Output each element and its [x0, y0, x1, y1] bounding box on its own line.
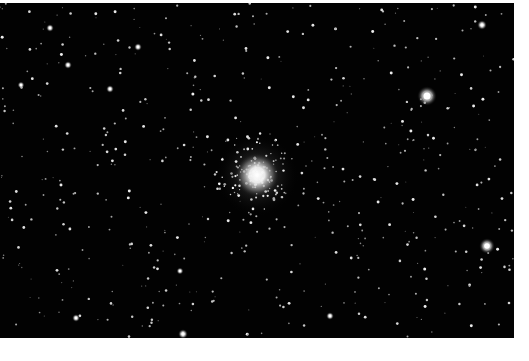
starfield-photo: [0, 3, 514, 338]
starfield: [0, 3, 514, 338]
cluster-halo: [215, 132, 299, 217]
